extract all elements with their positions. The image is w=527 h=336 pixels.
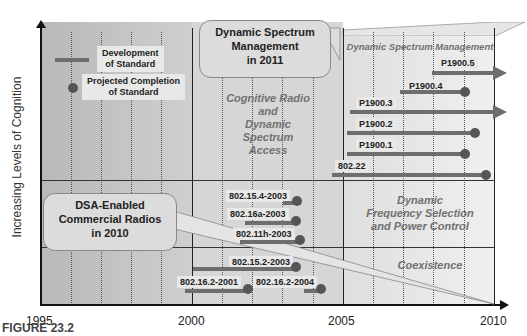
standard-label: 802.22 bbox=[335, 160, 369, 172]
dsa-callout: DSA-Enabled Commercial Radios in 2010 bbox=[43, 193, 177, 251]
standard-label: 802.11h-2003 bbox=[233, 228, 295, 240]
standard-bar bbox=[332, 173, 482, 177]
figure-caption: FIGURE 23.2 bbox=[2, 321, 74, 335]
standard-bar bbox=[245, 221, 295, 225]
completion-dot bbox=[291, 216, 301, 226]
dsm-region-header: Dynamic Spectrum Management bbox=[345, 40, 495, 53]
legend-completion-dot bbox=[68, 83, 78, 93]
legend-development-line bbox=[55, 58, 89, 62]
band-divider bbox=[41, 180, 495, 181]
standard-bar bbox=[193, 267, 293, 271]
completion-dot bbox=[295, 235, 305, 245]
completion-dot bbox=[460, 149, 470, 159]
standard-label: P1900.2 bbox=[356, 118, 396, 130]
standard-bar bbox=[400, 90, 462, 94]
dfs-region-label: Dynamic Frequency Selection and Power Co… bbox=[360, 194, 480, 233]
standard-label: P1900.1 bbox=[356, 139, 396, 151]
standard-label: P1900.5 bbox=[438, 57, 478, 69]
legend-development-label: Development of Standard bbox=[97, 46, 164, 72]
standard-bar bbox=[350, 110, 494, 114]
completion-dot bbox=[316, 284, 326, 294]
completion-dot bbox=[291, 262, 301, 272]
x-tick-2005: 2005 bbox=[328, 314, 355, 328]
x-tick-2010: 2010 bbox=[480, 314, 507, 328]
completion-dot bbox=[292, 196, 302, 206]
completion-dot bbox=[243, 284, 253, 294]
standard-bar bbox=[185, 289, 247, 293]
x-axis-arrow-icon bbox=[500, 300, 509, 310]
standard-label: 802.15.4-2003 bbox=[226, 190, 290, 202]
y-axis-label: Increasing Levels of Cognition bbox=[10, 72, 24, 242]
standard-label: 802.16.2-2001 bbox=[177, 276, 241, 288]
standard-label: 802.16.2-2004 bbox=[253, 276, 317, 288]
cognitive-region-label: Cognitive Radio and Dynamic Spectrum Acc… bbox=[198, 92, 338, 157]
completion-dot bbox=[460, 87, 470, 97]
standard-bar bbox=[432, 71, 494, 75]
dsm-callout: Dynamic Spectrum Management in 2011 bbox=[199, 20, 331, 78]
ongoing-arrow-icon bbox=[493, 105, 507, 119]
ongoing-arrow-icon bbox=[493, 66, 507, 80]
standard-bar bbox=[347, 131, 471, 135]
coexistence-region-label: Coexistence bbox=[380, 259, 480, 272]
completion-dot bbox=[481, 170, 491, 180]
x-tick-2000: 2000 bbox=[178, 314, 205, 328]
standard-label: P1900.3 bbox=[356, 97, 396, 109]
standard-label: 802.16a-2003 bbox=[227, 208, 289, 220]
y-axis-arrow-icon bbox=[36, 20, 46, 28]
completion-dot bbox=[470, 128, 480, 138]
standard-bar bbox=[240, 240, 298, 244]
legend-completion-label: Projected Completion of Standard bbox=[82, 74, 185, 100]
standard-bar bbox=[347, 152, 461, 156]
